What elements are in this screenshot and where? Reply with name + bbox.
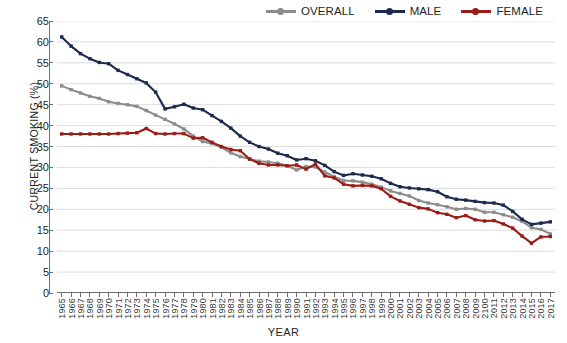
legend-item-overall[interactable]: OVERALL [266, 5, 355, 17]
x-axis-spine [57, 292, 555, 293]
x-tick-mark [287, 293, 288, 297]
data-point [473, 208, 476, 211]
y-tick-label: 0 [3, 287, 49, 299]
data-point [116, 69, 119, 72]
legend-item-female[interactable]: FEMALE [461, 5, 543, 17]
data-point [79, 132, 82, 135]
data-point [201, 136, 204, 139]
data-point [408, 186, 411, 189]
x-axis-title: YEAR [0, 326, 567, 338]
y-tick-label: 35 [3, 141, 49, 153]
data-point [220, 120, 223, 123]
x-tick-mark [315, 293, 316, 297]
data-point [492, 219, 495, 222]
data-point [60, 132, 63, 135]
data-point [98, 132, 101, 135]
data-point [239, 155, 242, 158]
data-point [502, 213, 505, 216]
data-point [473, 200, 476, 203]
data-point [88, 95, 91, 98]
data-point [145, 109, 148, 112]
data-point [539, 235, 542, 238]
data-point [549, 235, 552, 238]
data-point [145, 127, 148, 130]
data-point [295, 158, 298, 161]
x-tick-mark [343, 293, 344, 297]
x-tick-mark [146, 293, 147, 297]
x-tick-mark [446, 293, 447, 297]
x-tick-mark [428, 293, 429, 297]
x-tick-mark [212, 293, 213, 297]
data-point [426, 188, 429, 191]
y-tick-label: 10 [3, 245, 49, 257]
data-point [417, 199, 420, 202]
x-tick-label: 2008 [461, 298, 471, 319]
data-point [220, 145, 223, 148]
data-point [182, 127, 185, 130]
legend-swatch-icon [375, 6, 405, 16]
x-tick-mark [456, 293, 457, 297]
data-point [464, 207, 467, 210]
x-tick-label: 2011 [489, 298, 499, 318]
x-tick-mark [183, 293, 184, 297]
data-point [154, 132, 157, 135]
y-tick-label: 65 [3, 15, 49, 27]
legend-item-male[interactable]: MALE [375, 5, 442, 17]
data-point [257, 162, 260, 165]
data-point [154, 90, 157, 93]
y-tick-label: 30 [3, 161, 49, 173]
x-tick-mark [334, 293, 335, 297]
data-point [530, 226, 533, 229]
data-point [530, 223, 533, 226]
data-point [389, 189, 392, 192]
data-point [408, 194, 411, 197]
data-point [426, 201, 429, 204]
data-point [464, 198, 467, 201]
x-tick-mark [306, 293, 307, 297]
data-point [455, 208, 458, 211]
plot-area [57, 21, 555, 293]
data-point [69, 132, 72, 135]
x-tick-mark [324, 293, 325, 297]
data-point [361, 173, 364, 176]
data-point [145, 81, 148, 84]
x-tick-mark [108, 293, 109, 297]
data-point [473, 218, 476, 221]
data-point [492, 211, 495, 214]
data-point [370, 184, 373, 187]
x-tick-label: 1990 [292, 298, 302, 319]
legend-marker-dot [277, 8, 284, 15]
data-point [520, 234, 523, 237]
x-tick-mark [371, 293, 372, 297]
x-tick-mark [118, 293, 119, 297]
x-tick-label: 1983 [226, 298, 236, 319]
data-point [436, 203, 439, 206]
x-tick-mark [465, 293, 466, 297]
data-point [163, 132, 166, 135]
data-point [323, 164, 326, 167]
data-point [192, 136, 195, 139]
x-tick-mark [522, 293, 523, 297]
x-tick-mark [381, 293, 382, 297]
data-point [248, 141, 251, 144]
data-point [116, 102, 119, 105]
x-tick-mark [155, 293, 156, 297]
x-tick-mark [127, 293, 128, 297]
data-point [539, 221, 542, 224]
x-tick-mark [80, 293, 81, 297]
data-point [455, 198, 458, 201]
data-point [69, 88, 72, 91]
data-point [286, 164, 289, 167]
x-tick-mark [230, 293, 231, 297]
data-point [276, 152, 279, 155]
data-point [520, 218, 523, 221]
data-point [304, 157, 307, 160]
y-axis-ticks: 05101520253035404550556065 [0, 21, 49, 293]
data-point [126, 73, 129, 76]
x-tick-label: 2016 [536, 298, 546, 319]
x-tick-mark [165, 293, 166, 297]
data-point [530, 242, 533, 245]
chart-legend: OVERALLMALEFEMALE [0, 0, 567, 22]
data-point [210, 141, 213, 144]
x-tick-label: 1975 [151, 298, 161, 319]
